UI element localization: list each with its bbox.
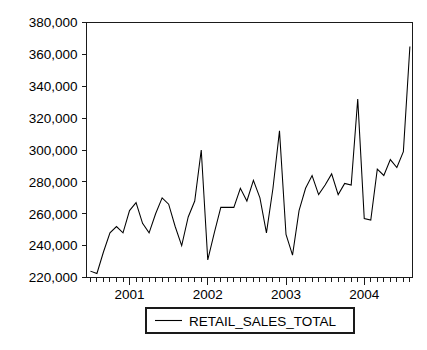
y-axis-tick-label: 360,000 <box>29 47 78 62</box>
y-axis-tick-label: 380,000 <box>29 15 78 30</box>
y-axis-tick-label: 320,000 <box>29 111 78 126</box>
x-axis-tick-group: 2001200220032004 <box>90 278 409 302</box>
chart-legend: RETAIL_SALES_TOTAL <box>146 308 354 333</box>
y-axis-tick-label: 340,000 <box>29 79 78 94</box>
x-axis-tick-label: 2004 <box>349 287 380 302</box>
x-axis-tick-label: 2002 <box>193 287 223 302</box>
x-axis-tick-label: 2003 <box>271 287 301 302</box>
y-axis-tick-label: 280,000 <box>29 175 78 190</box>
legend-label-retail-sales-total: RETAIL_SALES_TOTAL <box>189 314 337 329</box>
series-line-retail-sales-total <box>90 46 409 273</box>
y-axis-tick-label: 220,000 <box>29 270 78 285</box>
y-axis-tick-label: 240,000 <box>29 238 78 253</box>
y-axis-tick-label: 300,000 <box>29 143 78 158</box>
retail-sales-chart: 220,000240,000260,000280,000300,000320,0… <box>0 0 427 350</box>
y-axis-tick-label: 260,000 <box>29 207 78 222</box>
x-axis-tick-label: 2001 <box>115 287 145 302</box>
chart-svg: 220,000240,000260,000280,000300,000320,0… <box>0 0 427 350</box>
y-axis-tick-group: 220,000240,000260,000280,000300,000320,0… <box>29 15 87 285</box>
